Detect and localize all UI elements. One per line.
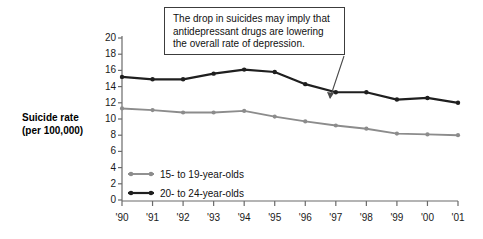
x-tick-label: '90 [109, 213, 135, 223]
annotation-line-1: The drop in suicides may imply that [173, 13, 330, 24]
x-tick-label: '00 [414, 213, 440, 223]
x-tick-label: '99 [384, 213, 410, 223]
legend-item-label-15-to-19: 15- to 19-year-olds [160, 170, 244, 180]
y-tick-label: 20 [94, 33, 116, 43]
y-tick-label: 6 [94, 146, 116, 156]
series-line-15-to-19 [120, 106, 460, 137]
annotation-callout-text: The drop in suicides may imply that anti… [173, 13, 337, 51]
x-tick-label: '96 [292, 213, 318, 223]
x-axis-ticks [122, 201, 458, 206]
legend-item-label-20-to-24: 20- to 24-year-olds [160, 189, 244, 199]
suicide-rate-line-chart: Suicide rate (per 100,000) 2018161412108… [0, 0, 483, 239]
x-tick-label: '91 [140, 213, 166, 223]
x-tick-label: '95 [262, 213, 288, 223]
y-tick-label: 8 [94, 130, 116, 140]
y-tick-label: 4 [94, 163, 116, 173]
y-tick-label: 0 [94, 195, 116, 205]
x-tick-label: '01 [445, 213, 471, 223]
x-tick-label: '98 [353, 213, 379, 223]
y-tick-label: 10 [94, 114, 116, 124]
y-tick-label: 2 [94, 179, 116, 189]
annotation-line-2: antidepressant drugs are lowering [173, 26, 324, 37]
x-tick-label: '97 [323, 213, 349, 223]
x-tick-label: '93 [201, 213, 227, 223]
series-line-20-to-24 [120, 67, 460, 105]
annotation-arrowhead-icon [327, 92, 334, 99]
annotation-line-3: the overall rate of depression. [173, 38, 305, 49]
annotation-callout-box: The drop in suicides may imply that anti… [164, 7, 345, 55]
y-tick-label: 14 [94, 82, 116, 92]
x-tick-label: '92 [170, 213, 196, 223]
x-tick-label: '94 [231, 213, 257, 223]
y-tick-label: 12 [94, 98, 116, 108]
y-tick-label: 18 [94, 49, 116, 59]
y-tick-label: 16 [94, 65, 116, 75]
legend-swatches [128, 172, 154, 196]
